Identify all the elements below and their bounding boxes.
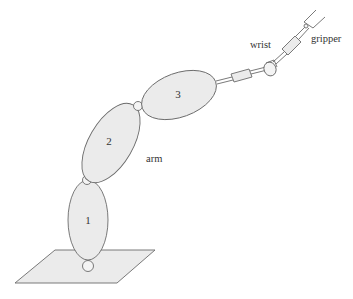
forearm-rod	[216, 67, 267, 84]
arm-segment-1: 1	[68, 180, 108, 260]
wrist-rod	[273, 26, 309, 64]
robot-arm-diagram: 1 2 3 wrist gripper	[0, 0, 353, 299]
segment-1-label: 1	[85, 214, 91, 226]
gripper-label: gripper	[311, 33, 342, 44]
wrist-joint	[262, 60, 278, 78]
base-joint	[83, 261, 94, 272]
segment-2-label: 2	[106, 135, 112, 147]
gripper	[304, 10, 325, 28]
arm-label: arm	[146, 153, 162, 164]
wrist-label: wrist	[250, 39, 271, 50]
segment-3-label: 3	[175, 88, 181, 100]
arm-segment-3: 3	[135, 61, 223, 129]
